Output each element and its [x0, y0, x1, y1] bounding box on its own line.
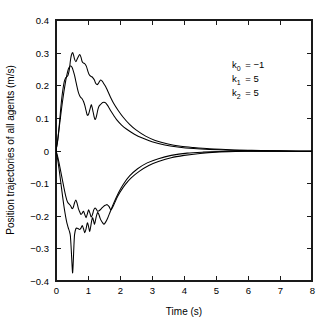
x-tick-label: 4 [182, 285, 187, 296]
y-tick-label: −0.3 [30, 243, 49, 254]
annotation-subscript: 2 [237, 93, 241, 100]
x-tick-label: 1 [86, 285, 91, 296]
y-tick-label: −0.4 [30, 276, 49, 287]
x-tick-label: 6 [246, 285, 251, 296]
annotation-subscript: 0 [237, 65, 241, 72]
trajectory-chart: 0.40.30.20.10−0.1−0.2−0.3−0.4 012345678 … [0, 0, 331, 336]
annotation-value: 5 [253, 87, 258, 98]
annotation-line: k1 = 5 [232, 73, 259, 86]
y-tick-label: 0.2 [36, 80, 49, 91]
x-tick-label: 0 [54, 285, 59, 296]
annotation-line: k2 = 5 [232, 87, 259, 100]
y-tick-label: 0.4 [36, 15, 49, 26]
annotation-equals: = [243, 87, 254, 98]
y-tick-label: 0 [44, 146, 49, 157]
x-tick-label: 5 [214, 285, 219, 296]
annotation-subscript: 1 [237, 79, 241, 86]
x-tick-label: 7 [278, 285, 283, 296]
annotation-value: 5 [253, 73, 258, 84]
y-tick-label: −0.1 [30, 178, 49, 189]
annotation-equals: = [243, 59, 254, 70]
x-tick-label: 2 [118, 285, 123, 296]
x-axis-title: Time (s) [166, 306, 202, 317]
y-tick-label: −0.2 [30, 211, 49, 222]
y-axis-title: Position trajectories of all agents (m/s… [5, 65, 16, 235]
x-tick-label: 3 [150, 285, 155, 296]
x-tick-label: 8 [310, 285, 315, 296]
annotation-equals: = [243, 73, 254, 84]
y-tick-label: 0.1 [36, 113, 49, 124]
figure-container: 0.40.30.20.10−0.1−0.2−0.3−0.4 012345678 … [0, 0, 331, 336]
annotation-value: −1 [253, 59, 264, 70]
y-tick-label: 0.3 [36, 48, 49, 59]
